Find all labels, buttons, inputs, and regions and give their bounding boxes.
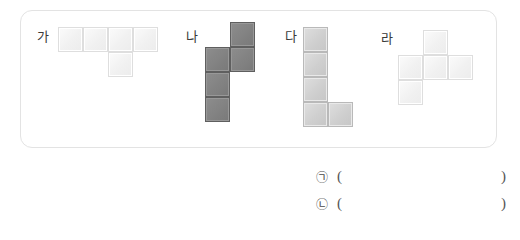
shape-cell [423, 55, 448, 80]
shape-cell [303, 52, 328, 77]
shape-cell [448, 55, 473, 80]
shape-cell [423, 30, 448, 55]
answer-row-b: ㉡ ( ) [316, 190, 506, 217]
shape-cell [303, 102, 328, 127]
answer-row-a: ㉠ ( ) [316, 163, 506, 190]
shape-cell [108, 27, 133, 52]
shape-label-na: 나 [186, 30, 198, 43]
paren-close: ) [501, 195, 506, 212]
shape-cell [303, 77, 328, 102]
answer-marker-nieun-icon: ㉡ [316, 195, 334, 212]
shape-cell [398, 80, 423, 105]
shape-label-ga: 가 [37, 30, 49, 43]
shape-cell [398, 55, 423, 80]
shape-cell [58, 27, 83, 52]
shape-cell [328, 102, 353, 127]
answer-input-b[interactable] [342, 203, 501, 204]
answer-marker-giyeok-icon: ㉠ [316, 168, 334, 185]
shape-cell [83, 27, 108, 52]
answer-area: ㉠ ( ) ㉡ ( ) [316, 163, 506, 217]
shape-cell [205, 97, 230, 122]
shape-label-da: 다 [285, 30, 297, 43]
shape-cell [303, 27, 328, 52]
shape-cell [133, 27, 158, 52]
shape-cell [205, 47, 230, 72]
shape-cell [230, 47, 255, 72]
shape-label-ra: 라 [381, 32, 393, 45]
shape-cell [205, 72, 230, 97]
answer-input-a[interactable] [342, 176, 501, 177]
shape-cell [230, 22, 255, 47]
shape-cell [108, 52, 133, 77]
paren-close: ) [501, 168, 506, 185]
